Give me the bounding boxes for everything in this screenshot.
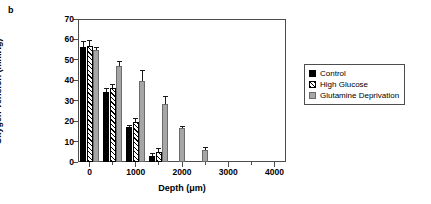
error-bar-stem	[142, 70, 143, 81]
hatched-square-icon	[309, 81, 316, 88]
x-tick-label: 4000	[254, 168, 294, 177]
error-bar-cap	[110, 84, 115, 85]
x-tick-minor	[112, 162, 113, 165]
y-tick-label: 30	[52, 97, 74, 106]
error-bar-cap	[203, 147, 208, 148]
bar-glutamine-deprivation	[162, 104, 168, 162]
panel-label: b	[8, 6, 14, 15]
error-bar-cap	[133, 118, 138, 119]
bar-high-glucose	[87, 46, 93, 162]
bar-high-glucose	[156, 152, 162, 162]
gray-square-icon	[309, 92, 316, 99]
y-tick-label: 70	[52, 15, 74, 24]
error-bar-cap	[87, 40, 92, 41]
error-bar-cap	[163, 96, 168, 97]
legend-item-label: High Glucose	[320, 81, 368, 89]
error-bar-cap	[104, 88, 109, 89]
error-bar-cap	[150, 153, 155, 154]
y-tick-label: 0	[52, 158, 74, 167]
figure-panel: b 010203040506070 01000200030004000 Oxyg…	[0, 0, 431, 204]
bar-control	[149, 156, 155, 162]
x-tick-minor	[205, 162, 206, 165]
legend-item: Control	[309, 68, 399, 79]
x-tick-label: 1000	[116, 168, 156, 177]
x-axis-title: Depth (μm)	[78, 184, 286, 193]
y-tick-label: 20	[52, 117, 74, 126]
x-tick-label: 0	[70, 168, 110, 177]
bar-high-glucose	[133, 122, 139, 162]
legend-item-label: Control	[320, 70, 346, 78]
y-tick-label: 60	[52, 35, 74, 44]
error-bar-cap	[140, 70, 145, 71]
x-tick-label: 2000	[162, 168, 202, 177]
chart-legend: ControlHigh GlucoseGlutamine Deprivation	[304, 64, 405, 105]
y-tick-label: 50	[52, 56, 74, 65]
bar-glutamine-deprivation	[139, 81, 145, 162]
bar-glutamine-deprivation	[179, 128, 185, 162]
bar-glutamine-deprivation	[93, 50, 99, 162]
legend-item: High Glucose	[309, 79, 399, 90]
y-tick-label: 40	[52, 76, 74, 85]
y-axis-title: Oxygen Tension (mmHg)	[0, 20, 3, 163]
bar-high-glucose	[110, 88, 116, 162]
error-bar-stem	[165, 96, 166, 104]
bar-glutamine-deprivation	[202, 150, 208, 162]
error-bar-cap	[127, 125, 132, 126]
y-tick-label: 10	[52, 138, 74, 147]
error-bar-cap	[180, 126, 185, 127]
bar-control	[126, 127, 132, 162]
bar-control	[103, 92, 109, 162]
error-bar-cap	[81, 41, 86, 42]
x-tick-label: 3000	[208, 168, 248, 177]
legend-item: Glutamine Deprivation	[309, 90, 399, 101]
error-bar-cap	[156, 148, 161, 149]
error-bar-cap	[94, 47, 99, 48]
x-tick-minor	[251, 162, 252, 165]
legend-item-label: Glutamine Deprivation	[320, 92, 399, 100]
error-bar-cap	[117, 61, 122, 62]
bar-control	[80, 47, 86, 162]
solid-black-square-icon	[309, 70, 316, 77]
bar-glutamine-deprivation	[116, 66, 122, 162]
x-tick-minor	[158, 162, 159, 165]
